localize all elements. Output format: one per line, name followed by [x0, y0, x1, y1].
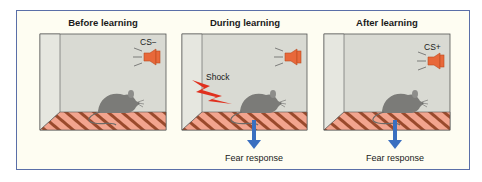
panel-during-learning: [182, 34, 307, 149]
panel-before-learning: [40, 34, 166, 130]
fear-response-label-during: Fear response: [204, 153, 304, 163]
panel-title-during: During learning: [182, 17, 308, 28]
fear-response-label-after: Fear response: [345, 153, 445, 163]
cs-minus-label: CS−: [140, 37, 157, 47]
panel-title-before: Before learning: [40, 17, 166, 28]
cs-plus-label: CS+: [424, 42, 441, 52]
shock-label: Shock: [206, 72, 230, 82]
panel-title-after: After learning: [324, 17, 450, 28]
